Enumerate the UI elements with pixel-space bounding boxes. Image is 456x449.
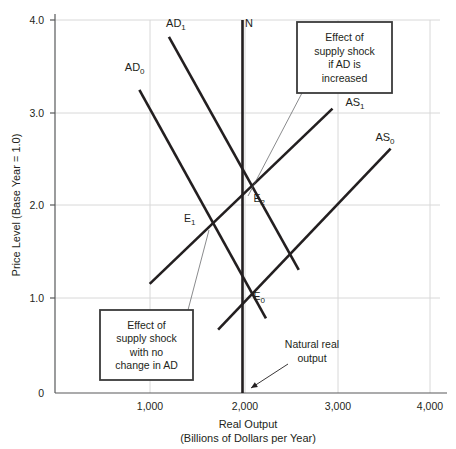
- y-tick-label-2: 2.0: [29, 199, 44, 211]
- x-tick-label-1000: 1,000: [137, 400, 163, 412]
- x-axis-title: Real Output: [219, 418, 278, 430]
- y-tick-label-0: 0: [38, 387, 44, 399]
- x-tick-label-2000: 2,000: [232, 400, 258, 412]
- callout-supply-shock-no-change-line-1: supply shock: [116, 332, 177, 344]
- natural-real-output-line-0: Natural real: [285, 338, 339, 350]
- curve-ad1: [169, 37, 299, 270]
- y-tick-label-4: 4.0: [29, 14, 44, 26]
- equilibrium-label-group: E0E1E2: [184, 192, 266, 305]
- aggregate-supply-demand-chart: 4.0 3.0 2.0 1.0 0 1,000 2,000 3,000 4,00…: [0, 0, 456, 449]
- natural-real-output-line-1: output: [297, 352, 326, 364]
- curve-as0: [218, 149, 391, 330]
- callout-supply-shock-ad-increased-line-0: Effect of: [325, 31, 363, 43]
- curve-ad0: [139, 90, 266, 318]
- curve-label-n: N: [245, 17, 253, 29]
- x-tick-label-3000: 3,000: [325, 400, 351, 412]
- curve-as1: [150, 109, 333, 284]
- y-tick-label-1: 1.0: [29, 292, 44, 304]
- callout-supply-shock-ad-increased-line-2: if AD is: [328, 58, 361, 70]
- y-axis-title: Price Level (Base Year = 1.0): [10, 134, 22, 277]
- callout-supply-shock-ad-increased-line-3: increased: [322, 72, 368, 84]
- equilibrium-label-e0: E0: [254, 290, 266, 305]
- curve-label-as1: AS1: [345, 96, 365, 111]
- curve-label-as0: AS0: [375, 131, 395, 146]
- callout-supply-shock-ad-increased-line-1: supply shock: [314, 45, 375, 57]
- natural-real-output-arrowhead: [251, 382, 258, 388]
- callout-supply-shock-no-change-line-2: with no: [129, 346, 163, 358]
- y-tick-label-3: 3.0: [29, 107, 44, 119]
- callout-supply-shock-no-change-line-3: change in AD: [115, 359, 178, 371]
- curve-label-ad0: AD0: [125, 61, 145, 76]
- callout-supply-shock-no-change-line-0: Effect of: [127, 319, 165, 331]
- chart-svg: 4.0 3.0 2.0 1.0 0 1,000 2,000 3,000 4,00…: [0, 0, 456, 449]
- x-tick-label-4000: 4,000: [417, 400, 443, 412]
- natural-real-output-arrow: [251, 364, 288, 388]
- equilibrium-label-e1: E1: [184, 212, 196, 227]
- x-axis-subtitle: (Billions of Dollars per Year): [180, 432, 316, 444]
